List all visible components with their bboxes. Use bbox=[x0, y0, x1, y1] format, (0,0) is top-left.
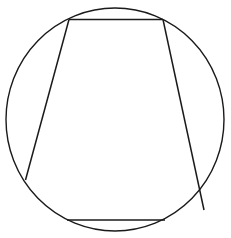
left-chord bbox=[26, 20, 70, 181]
circle bbox=[6, 8, 224, 231]
chords-group bbox=[26, 20, 205, 221]
inscribed-chords-diagram bbox=[0, 0, 231, 238]
